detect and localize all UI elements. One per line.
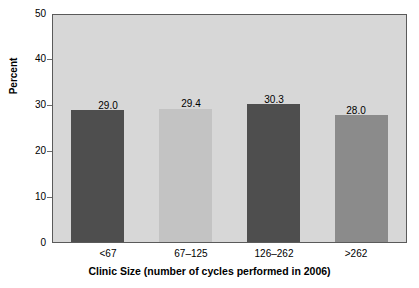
y-tick-label-30: 30: [24, 100, 46, 110]
plot-area: [52, 14, 407, 243]
bar-value-label-3: 28.0: [328, 105, 384, 116]
bar-chart: Percent 50 40 30 20 10 0 29.0 29.4 30.3 …: [0, 0, 419, 288]
y-tick-label-50: 50: [24, 9, 46, 19]
y-tick-label-10: 10: [24, 192, 46, 202]
y-axis-title: Percent: [4, 36, 24, 116]
y-tick-label-0: 0: [24, 238, 46, 248]
bar-value-label-0: 29.0: [80, 100, 136, 111]
y-tick-label-20: 20: [24, 146, 46, 156]
y-axis-tick-labels: 50 40 30 20 10 0: [24, 0, 46, 288]
x-tick-label-2: 126–262: [246, 248, 302, 259]
bars-layer: [53, 15, 406, 242]
x-tick-label-0: <67: [80, 248, 136, 259]
bar-value-label-1: 29.4: [163, 98, 219, 109]
bar-1: [159, 109, 212, 242]
x-tick-label-3: >262: [328, 248, 384, 259]
x-axis-title: Clinic Size (number of cycles performed …: [0, 265, 419, 277]
y-tick-label-40: 40: [24, 54, 46, 64]
bar-value-label-2: 30.3: [246, 94, 302, 105]
bar-2: [247, 104, 300, 242]
x-tick-label-1: 67–125: [163, 248, 219, 259]
bar-3: [335, 115, 388, 242]
bar-0: [71, 110, 124, 242]
